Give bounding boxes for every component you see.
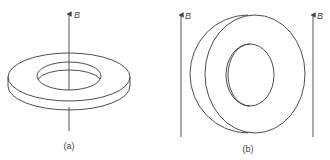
ring-b-hole-wall <box>228 44 250 106</box>
panel-a-caption: (a) <box>64 141 75 151</box>
diagram-canvas: B (a) B B (b) <box>0 0 330 160</box>
ring-b-outer-edge <box>205 15 305 133</box>
b-field-label-b-left: B <box>185 11 191 21</box>
b-field-label-a: B <box>74 10 80 20</box>
panel-b: B B (b) <box>181 11 323 154</box>
b-field-label-b-right: B <box>317 11 323 21</box>
panel-a: B (a) <box>8 10 130 151</box>
ring-b-inner-edge <box>226 44 274 106</box>
panel-b-caption: (b) <box>243 144 254 154</box>
